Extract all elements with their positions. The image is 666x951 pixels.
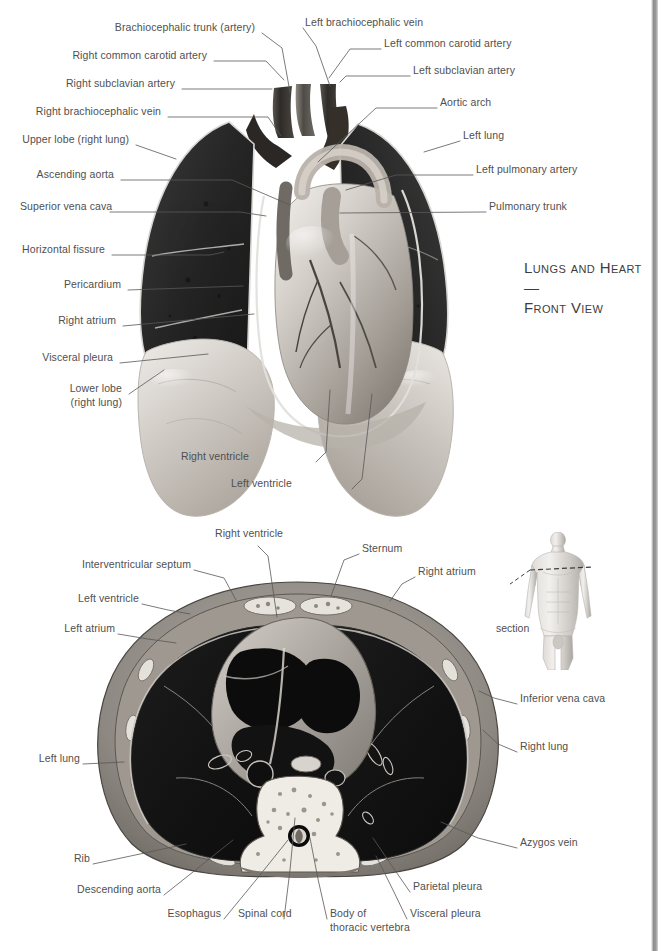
label-left-common-carotid-artery: Left common carotid artery (384, 37, 511, 50)
label-brachiocephalic-trunk: Brachiocephalic trunk (artery) (55, 21, 255, 34)
label-sternum: Sternum (362, 542, 402, 555)
label-inferior-vena-cava: Inferior vena cava (520, 692, 605, 705)
label-visceral-pleura-bottom: Visceral pleura (410, 907, 481, 920)
label-right-atrium-bottom: Right atrium (418, 565, 476, 578)
label-left-ventricle-bottom: Left ventricle (20, 592, 139, 605)
label-right-common-carotid-artery: Right common carotid artery (20, 49, 207, 62)
label-spinal-cord: Spinal cord (238, 907, 292, 920)
label-body-of-thoracic-vertebra-2: thoracic vertebra (330, 921, 410, 934)
lungs-heart-front-view-illustration (96, 84, 492, 528)
label-interventricular-septum: Interventricular septum (20, 558, 191, 571)
label-descending-aorta: Descending aorta (40, 883, 161, 896)
label-upper-lobe-right-lung: Upper lobe (right lung) (20, 133, 129, 146)
label-esophagus: Esophagus (150, 907, 221, 920)
label-right-lung-bottom: Right lung (520, 740, 568, 753)
figure-title-line-2: Front View (524, 298, 654, 318)
right-atrium-chamber (296, 659, 360, 734)
label-ascending-aorta: Ascending aorta (20, 168, 114, 181)
label-left-brachiocephalic-vein: Left brachiocephalic vein (305, 16, 423, 29)
label-right-brachiocephalic-vein: Right brachiocephalic vein (20, 105, 161, 118)
label-aortic-arch: Aortic arch (440, 96, 491, 109)
figure-title: Lungs and Heart— Front View (524, 258, 654, 318)
label-body-of-thoracic-vertebra-1: Body of (330, 907, 366, 920)
page-edge-shadow (651, 0, 658, 951)
body-orientation-diagram (510, 532, 606, 670)
label-right-atrium: Right atrium (20, 314, 116, 327)
label-lower-lobe-line-1: Lower lobe (20, 382, 122, 395)
atlas-page: Lungs and Heart— Front View (0, 0, 666, 951)
label-pulmonary-trunk: Pulmonary trunk (489, 200, 567, 213)
label-parietal-pleura: Parietal pleura (413, 880, 482, 893)
label-visceral-pleura: Visceral pleura (20, 351, 113, 364)
label-left-lung-bottom: Left lung (20, 752, 80, 765)
label-left-subclavian-artery: Left subclavian artery (413, 64, 515, 77)
thorax-cross-section-illustration (88, 578, 508, 880)
label-right-ventricle-top: Right ventricle (170, 450, 249, 463)
section-arrow-line (510, 570, 530, 594)
label-lower-lobe-line-2: (right lung) (20, 396, 122, 409)
label-right-subclavian-artery: Right subclavian artery (20, 77, 175, 90)
spinal-cord-shape (288, 825, 310, 847)
label-pericardium: Pericardium (20, 278, 121, 291)
label-left-ventricle-top: Left ventricle (220, 477, 292, 490)
section-label: section (496, 622, 529, 634)
label-left-pulmonary-artery: Left pulmonary artery (476, 163, 577, 176)
figure-title-line-1: Lungs and Heart— (524, 258, 654, 298)
label-azygos-vein: Azygos vein (520, 836, 578, 849)
label-horizontal-fissure: Horizontal fissure (20, 243, 105, 256)
label-right-ventricle-bottom: Right ventricle (215, 527, 283, 540)
label-superior-vena-cava: Superior vena cava (20, 200, 103, 213)
right-lower-lobe (138, 339, 274, 516)
label-rib: Rib (40, 852, 90, 865)
label-left-atrium: Left atrium (20, 622, 115, 635)
page-edge-outer (658, 0, 666, 951)
label-left-lung: Left lung (463, 129, 504, 142)
